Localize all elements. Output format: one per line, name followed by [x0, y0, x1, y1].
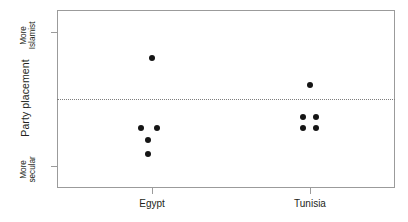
x-axis-label-egypt: Egypt — [139, 198, 165, 209]
x-axis-tick-egypt — [152, 188, 153, 194]
y-axis-label-more-secular: More secular — [19, 138, 38, 200]
reference-line — [57, 99, 395, 100]
y-axis-label-more-secular-line2: secular — [28, 138, 37, 200]
y-axis-tick-bottom — [51, 166, 57, 167]
x-axis-tick-tunisia — [310, 188, 311, 194]
y-axis-tick-top — [51, 32, 57, 33]
y-axis-label-more-islamist-line1: More — [19, 4, 28, 66]
y-axis-label-more-secular-line1: More — [19, 138, 28, 200]
y-axis-label-more-islamist: More Islamist — [19, 4, 38, 66]
scatter-chart-figure: Party placement More Islamist More secul… — [0, 0, 408, 222]
y-axis-label-more-islamist-line2: Islamist — [28, 4, 37, 66]
x-axis-label-tunisia: Tunisia — [294, 198, 326, 209]
